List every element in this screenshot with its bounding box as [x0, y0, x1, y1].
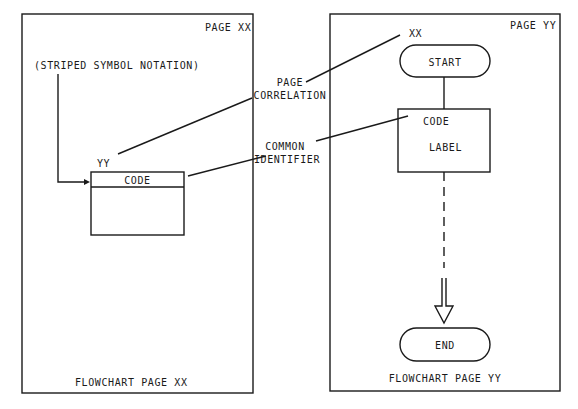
left-page-footer: FLOWCHART PAGE XX [75, 377, 188, 389]
right-page-label: PAGE YY [510, 20, 556, 32]
page-correlation-line2: CORRELATION [250, 90, 330, 102]
page-correlation-leader-left [118, 98, 252, 154]
process-code: CODE [423, 116, 449, 128]
common-identifier-line1: COMMON [250, 141, 320, 153]
page-correlation-line1: PAGE [250, 77, 330, 89]
notation-label: (STRIPED SYMBOL NOTATION) [34, 60, 200, 72]
left-page-label: PAGE XX [205, 22, 251, 34]
double-arrow-icon [435, 278, 453, 323]
end-label: END [400, 340, 490, 352]
notation-connector [58, 74, 88, 182]
right-page-ref: XX [409, 28, 422, 40]
right-page-frame [330, 14, 560, 391]
process-label: LABEL [429, 142, 462, 154]
start-label: START [400, 57, 490, 69]
stripe-code: CODE [91, 175, 184, 187]
common-identifier-line2: IDENTIFIER [252, 154, 322, 166]
arrowhead-icon [84, 179, 90, 185]
right-page-footer: FLOWCHART PAGE YY [330, 373, 560, 385]
page-correlation-leader-right [306, 35, 400, 82]
left-page-ref: YY [97, 158, 110, 170]
